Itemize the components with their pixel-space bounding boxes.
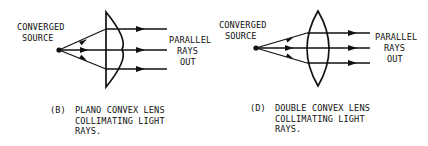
output-label-line3: OUT [387, 54, 403, 64]
incident-arrow-icons [79, 39, 88, 60]
source-label-line1: CONVERGED [219, 20, 266, 30]
output-label-line2: RAYS [177, 46, 198, 56]
caption-line3: RAYS. [275, 124, 301, 134]
output-label-line2: RAYS [384, 43, 405, 53]
caption-tag: (B) [50, 105, 66, 115]
parallel-rays [307, 33, 370, 63]
caption-tag: (D) [250, 103, 266, 113]
output-label-line1: PARALLEL [169, 35, 211, 45]
incident-rays [256, 33, 307, 63]
source-label-line1: CONVERGED [17, 22, 64, 32]
output-label-line3: OUT [180, 57, 196, 67]
diagram-double-convex: CONVERGED SOURCE PARALLEL [219, 11, 417, 134]
source-label-line2: SOURCE [225, 31, 257, 41]
source-label-line2: SOURCE [22, 33, 54, 43]
caption-line2: COLLIMATING LIGHT [275, 114, 365, 124]
incident-arrow-icons [285, 37, 294, 59]
caption-line3: RAYS. [75, 126, 101, 136]
caption-line1: DOUBLE CONVEX LENS [275, 103, 370, 113]
parallel-arrow-icons [136, 26, 145, 72]
output-label-line1: PARALLEL [375, 32, 417, 42]
caption-line2: COLLIMATING LIGHT [75, 116, 165, 126]
lens-diagrams: CONVERGED SOURCE PARALL [0, 0, 428, 146]
caption-line1: PLANO CONVEX LENS [75, 105, 165, 115]
parallel-arrow-icons [348, 30, 357, 66]
diagram-plano-convex: CONVERGED SOURCE PARALL [17, 12, 211, 136]
